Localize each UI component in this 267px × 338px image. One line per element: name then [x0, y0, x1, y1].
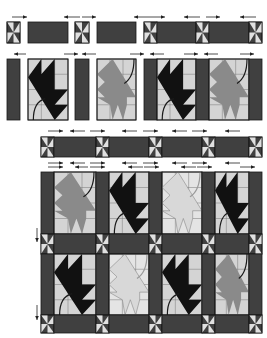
press-arrow-icon	[143, 161, 158, 165]
press-arrow-icon	[144, 165, 159, 169]
press-arrow-icon	[14, 52, 26, 56]
sashing-strip	[7, 59, 20, 120]
press-arrow-icon	[122, 161, 137, 165]
sashing-row-units	[7, 15, 262, 43]
press-arrow-icon	[122, 129, 137, 133]
pinwheel-cornerstone	[149, 137, 162, 157]
sashing-strip	[109, 315, 149, 333]
leaf-block-medium	[54, 172, 96, 234]
pinwheel-cornerstone	[149, 234, 162, 254]
sashing-strip	[202, 254, 215, 315]
joined-sashing-row	[41, 129, 262, 165]
pinwheel-cornerstone	[96, 315, 109, 333]
leaf-block-dark	[215, 172, 249, 234]
pinwheel-cornerstone	[41, 315, 54, 333]
press-arrow-icon	[197, 165, 212, 169]
sashing-strip	[97, 22, 136, 43]
press-arrow-icon	[70, 129, 85, 133]
press-arrow-icon	[150, 52, 164, 56]
press-arrow-icon	[225, 129, 240, 133]
sashing-strip	[215, 234, 249, 254]
diagram-canvas	[0, 0, 267, 338]
sashing-strip	[196, 59, 209, 120]
press-arrow-icon	[134, 15, 150, 19]
sashing-strip	[162, 315, 202, 333]
sashing-strip	[249, 172, 262, 234]
pinwheel-cornerstone	[196, 22, 209, 43]
press-arrow-icon	[130, 52, 144, 56]
sashing-strip	[144, 59, 157, 120]
press-arrow-icon	[143, 129, 158, 133]
pinwheel-cornerstone	[249, 234, 262, 254]
press-arrow-icon	[184, 15, 200, 19]
sashing-strip	[149, 172, 162, 234]
press-arrow-icon	[181, 165, 196, 169]
pinwheel-cornerstone	[249, 137, 262, 157]
sashing-strip	[162, 234, 202, 254]
press-arrow-icon	[64, 52, 78, 56]
pinwheel-cornerstone	[41, 137, 54, 157]
leaf-block-dark	[162, 254, 202, 315]
sashing-strip	[109, 137, 149, 157]
pinwheel-cornerstone	[96, 137, 109, 157]
press-arrow-icon	[64, 15, 80, 19]
leaf-block-light	[162, 172, 202, 234]
sashing-strip	[41, 172, 54, 234]
quilt-diagram	[0, 0, 267, 338]
press-arrow-icon	[192, 129, 207, 133]
press-arrow-icon	[150, 15, 165, 19]
block-row-units	[7, 52, 262, 120]
press-arrow-icon	[35, 305, 39, 320]
sashing-strip	[215, 315, 249, 333]
press-arrow-icon	[128, 165, 143, 169]
sashing-strip	[54, 234, 96, 254]
leaf-block-dark	[109, 172, 149, 234]
sashing-strip	[28, 22, 68, 43]
leaf-block-dark	[54, 254, 96, 315]
leaf-block-light	[109, 254, 149, 315]
press-arrow-icon	[90, 165, 105, 169]
press-arrow-icon	[225, 161, 240, 165]
press-arrow-icon	[192, 161, 207, 165]
press-arrow-icon	[82, 15, 96, 19]
sashing-strip	[249, 59, 262, 120]
press-arrow-icon	[48, 161, 63, 165]
sashing-strip	[157, 22, 196, 43]
pinwheel-cornerstone	[249, 22, 262, 43]
press-arrow-icon	[48, 165, 63, 169]
sashing-strip	[215, 137, 249, 157]
sashing-strip	[162, 137, 202, 157]
pinwheel-cornerstone	[249, 315, 262, 333]
press-arrow-icon	[12, 15, 27, 19]
sashing-strip	[149, 254, 162, 315]
sashing-strip	[209, 22, 249, 43]
sashing-strip	[96, 172, 109, 234]
pinwheel-cornerstone	[96, 234, 109, 254]
press-arrow-icon	[90, 129, 105, 133]
sashing-strip	[249, 254, 262, 315]
press-arrow-icon	[90, 161, 105, 165]
press-arrow-icon	[204, 52, 218, 56]
leaf-block-dark	[157, 59, 196, 120]
sashing-strip	[109, 234, 149, 254]
sashing-strip	[96, 254, 109, 315]
sashing-strip	[54, 315, 96, 333]
pinwheel-cornerstone	[144, 22, 157, 43]
leaf-block-medium	[97, 59, 136, 120]
press-arrow-icon	[70, 161, 85, 165]
sashing-strip	[54, 137, 96, 157]
leaf-block-dark	[28, 59, 68, 120]
pinwheel-cornerstone	[149, 315, 162, 333]
press-arrow-icon	[172, 129, 187, 133]
sashing-strip	[41, 254, 54, 315]
sashing-strip	[202, 172, 215, 234]
pinwheel-cornerstone	[202, 137, 215, 157]
press-arrow-icon	[206, 15, 220, 19]
pinwheel-cornerstone	[7, 22, 20, 43]
pinwheel-cornerstone	[75, 22, 89, 43]
press-arrow-icon	[240, 165, 255, 169]
pinwheel-cornerstone	[202, 234, 215, 254]
press-arrow-icon	[82, 52, 96, 56]
pinwheel-cornerstone	[202, 315, 215, 333]
press-arrow-icon	[172, 161, 187, 165]
